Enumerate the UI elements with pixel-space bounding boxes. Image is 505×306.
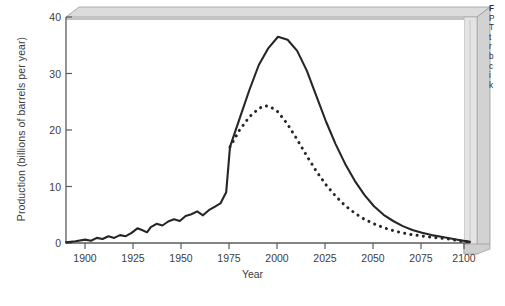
x-tick-label-1900: 1900 xyxy=(63,252,107,264)
x-tick-label-2025: 2025 xyxy=(303,252,347,264)
frame-top-inner-shadow xyxy=(66,17,477,20)
y-tick-label-40: 40 xyxy=(31,11,61,23)
x-tick-label-2100: 2100 xyxy=(442,252,486,264)
caption-line-4: t xyxy=(489,33,505,43)
x-tick-label-1950: 1950 xyxy=(159,252,203,264)
caption-line-8: i xyxy=(489,71,505,81)
frame-top-face xyxy=(66,7,490,17)
caption-line-1: F xyxy=(489,4,505,14)
x-tick-label-2075: 2075 xyxy=(399,252,443,264)
caption-line-6: b xyxy=(489,52,505,62)
figure-container: 0 10 20 30 40 1900 1925 1950 1975 2000 2… xyxy=(0,0,505,306)
y-tick-label-10: 10 xyxy=(31,181,61,193)
frame-right-inner-face xyxy=(464,17,477,254)
figure-caption: F P T t r b c i k xyxy=(489,4,505,90)
x-tick-label-1975: 1975 xyxy=(207,252,251,264)
y-tick-label-30: 30 xyxy=(31,68,61,80)
x-tick-marks xyxy=(85,243,464,249)
caption-line-7: c xyxy=(489,62,505,72)
y-axis-title: Production (billions of barrels per year… xyxy=(15,9,27,249)
caption-line-2: P xyxy=(489,14,505,24)
y-tick-label-0: 0 xyxy=(31,237,61,249)
x-tick-label-2000: 2000 xyxy=(255,252,299,264)
caption-line-3: T xyxy=(489,23,505,33)
caption-line-9: k xyxy=(489,81,505,91)
x-tick-label-2050: 2050 xyxy=(351,252,395,264)
x-tick-label-1925: 1925 xyxy=(111,252,155,264)
y-tick-label-20: 20 xyxy=(31,124,61,136)
caption-line-5: r xyxy=(489,42,505,52)
x-axis-title: Year xyxy=(0,268,505,280)
